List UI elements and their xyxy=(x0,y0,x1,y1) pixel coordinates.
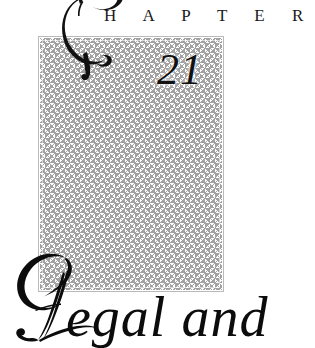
chapter-number: 21 xyxy=(157,48,203,92)
ornate-swash-capital-c-icon xyxy=(49,0,125,82)
chapter-title: egal and xyxy=(66,289,268,345)
chapter-label: H A P T E R xyxy=(104,7,315,24)
